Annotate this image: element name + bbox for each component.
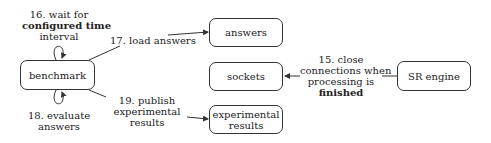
node-answers: answers: [209, 18, 283, 47]
node-answers-label: answers: [225, 27, 267, 38]
node-experimental-results: experimental results: [209, 105, 283, 134]
node-sr-engine: SR engine: [397, 61, 471, 91]
node-sockets-label: sockets: [227, 71, 265, 82]
edge-15-label: 15. close connections when processing is…: [300, 54, 382, 98]
diagram-canvas: benchmark answers sockets experimental r…: [0, 0, 491, 143]
edge-17: [89, 46, 120, 60]
node-experimental-label-2: results: [229, 120, 264, 131]
node-sr-engine-label: SR engine: [408, 71, 460, 82]
edge-18-label: 18. evaluate answers: [22, 110, 96, 132]
edge-17-label: 17. load answers: [110, 35, 186, 46]
edge-16-loop: [54, 46, 63, 60]
edge-16-label: 16. wait for configured time interval: [22, 9, 96, 42]
edge-18-loop: [54, 90, 63, 104]
edge-19-label: 19. publish experimental results: [110, 95, 184, 128]
node-benchmark-label: benchmark: [29, 70, 86, 81]
edge-19: [89, 90, 106, 97]
node-experimental-label-1: experimental: [213, 109, 280, 120]
node-benchmark: benchmark: [20, 60, 95, 90]
node-sockets: sockets: [209, 62, 283, 91]
